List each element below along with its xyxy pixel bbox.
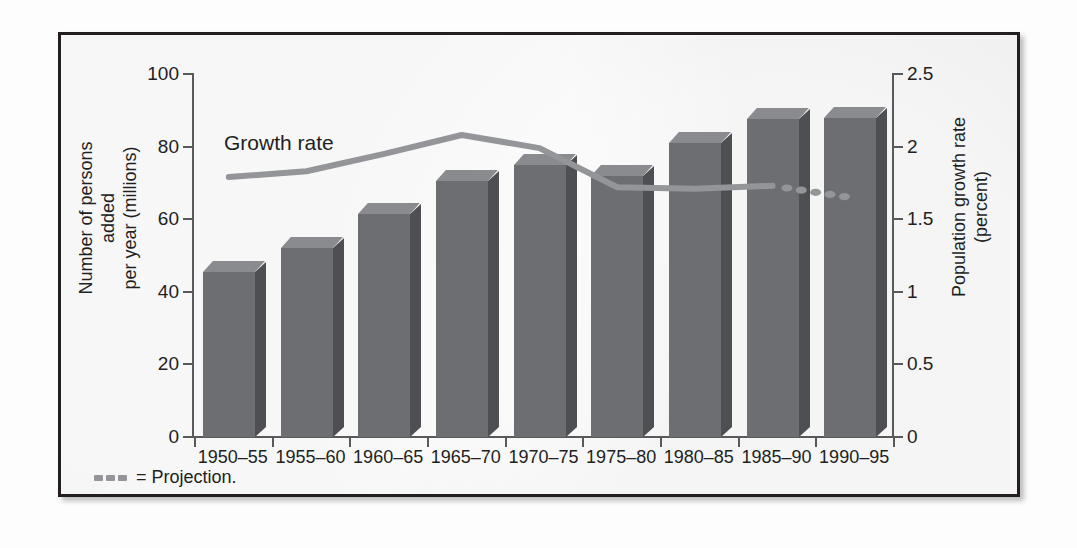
bar-side-face [876,108,887,437]
screenshot-root: 020406080100 00.511.522.5 Number of pers… [0,0,1077,548]
bar-top-face [591,165,653,176]
bar-top-face [669,132,731,143]
x-axis-tick [893,438,895,447]
x-axis-tick-label: 1965–70 [421,447,511,468]
right-axis-tick [894,73,903,75]
bar [281,248,333,437]
right-axis-tick [894,436,903,438]
bar-side-face [721,133,732,437]
bar-front-face [436,181,488,437]
bar [436,181,488,437]
bar [669,143,721,437]
right-axis-tick [894,146,903,148]
x-axis-tick-label: 1975–80 [576,447,666,468]
left-axis-tick-label: 20 [113,354,179,373]
bar-top-face [358,203,420,214]
bar [358,214,410,437]
x-axis-tick [427,438,429,447]
bar-top-face [514,154,576,165]
left-axis-tick [183,218,192,220]
right-axis-line [892,73,894,438]
bar-top-face [436,170,498,181]
x-axis-tick-label: 1990–95 [809,447,899,468]
right-axis-title: Population growth rate (percent) [949,107,993,307]
x-axis-tick-label: 1955–60 [266,447,356,468]
x-axis-tick-label: 1970–75 [499,447,589,468]
bar-side-face [333,238,344,437]
x-axis-tick [660,438,662,447]
legend-text: = Projection. [136,467,237,488]
left-axis-tick [183,363,192,365]
x-axis-tick [505,438,507,447]
x-axis-tick [582,438,584,447]
bar-side-face [799,109,810,437]
bar-front-face [203,272,255,437]
x-axis-tick [272,438,274,447]
bar-front-face [591,176,643,437]
x-axis-tick [349,438,351,447]
left-axis-tick [183,436,192,438]
bar-top-face [281,237,343,248]
bar-front-face [669,143,721,437]
left-axis-tick [183,146,192,148]
x-axis-tick-label: 1985–90 [732,447,822,468]
right-axis-tick [894,291,903,293]
bar-side-face [410,204,421,437]
bar-top-face [824,107,886,118]
bar-front-face [281,248,333,437]
bar [514,165,566,437]
left-axis-tick [183,291,192,293]
dashed-line-icon [94,475,127,481]
x-axis-tick [194,438,196,447]
x-axis-tick [738,438,740,447]
bar [747,119,799,437]
bar-front-face [747,119,799,437]
right-axis-tick-label: 0.5 [907,354,973,373]
right-axis-tick [894,218,903,220]
x-axis-tick-label: 1960–65 [343,447,433,468]
left-axis-tick [183,73,192,75]
bar [203,272,255,437]
x-axis-tick-label: 1950–55 [188,447,278,468]
x-axis-tick-label: 1980–85 [654,447,744,468]
left-axis-title: Number of persons added per year (millio… [76,118,142,318]
left-axis-tick-label: 0 [113,427,179,446]
right-axis-tick-label: 0 [907,427,973,446]
bar-front-face [824,118,876,437]
bar-top-face [203,261,265,272]
bar-front-face [514,165,566,437]
bar-side-face [643,166,654,437]
bar-side-face [488,171,499,437]
bar-side-face [566,155,577,437]
bar-top-face [747,108,809,119]
bar-front-face [358,214,410,437]
right-axis-tick [894,363,903,365]
bar-side-face [255,262,266,437]
growth-rate-annotation: Growth rate [224,131,334,155]
legend: = Projection. [94,467,237,488]
left-axis-line [192,73,194,438]
projection-dot [810,189,821,196]
chart-figure-frame: 020406080100 00.511.522.5 Number of pers… [58,32,1020,497]
right-axis-tick-label: 2.5 [907,64,973,83]
left-axis-tick-label: 100 [113,64,179,83]
bar [591,176,643,437]
bar [824,118,876,437]
x-axis-tick [815,438,817,447]
